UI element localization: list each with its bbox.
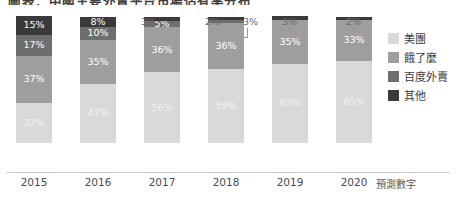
x-axis-tick-2020: 2020 bbox=[336, 176, 372, 188]
bar-segment[interactable]: 65% bbox=[336, 61, 372, 143]
bar-segment[interactable]: 63% bbox=[272, 64, 308, 143]
bar-segment[interactable]: 32% bbox=[16, 103, 52, 143]
segment-value-label: 15% bbox=[16, 20, 52, 30]
outside-value-label: 2% bbox=[346, 16, 361, 27]
leader-line bbox=[212, 28, 213, 34]
legend-item[interactable]: 百度外賣 bbox=[388, 67, 448, 85]
outside-value-label: 3% bbox=[141, 16, 156, 27]
segment-value-label: 10% bbox=[80, 28, 116, 38]
x-axis-tick-2018: 2018 bbox=[208, 176, 244, 188]
bar-column[interactable]: 47%35%10%8% bbox=[80, 17, 116, 143]
leader-line bbox=[244, 28, 248, 38]
bar-column[interactable]: 32%37%17%15% bbox=[16, 17, 52, 143]
segment-value-label: 63% bbox=[272, 98, 308, 108]
leader-line bbox=[353, 28, 354, 34]
segment-value-label: 65% bbox=[336, 97, 372, 107]
x-axis-tick-2016: 2016 bbox=[80, 176, 116, 188]
segment-value-label: 36% bbox=[208, 41, 244, 51]
legend-swatch-icon bbox=[388, 90, 399, 101]
legend-item[interactable]: 美團 bbox=[388, 29, 448, 47]
bar-column[interactable]: 65%33% bbox=[336, 17, 372, 143]
segment-value-label: 56% bbox=[144, 103, 180, 113]
segment-value-label: 32% bbox=[16, 118, 52, 128]
segment-value-label: 17% bbox=[16, 40, 52, 50]
forecast-note: 預測數字 bbox=[376, 176, 416, 191]
bar-segment[interactable]: 59% bbox=[208, 69, 244, 143]
x-axis-tick-2015: 2015 bbox=[16, 176, 52, 188]
bar-segment[interactable]: 36% bbox=[144, 27, 180, 72]
x-axis-tick-2017: 2017 bbox=[144, 176, 180, 188]
leader-line bbox=[148, 28, 149, 34]
segment-value-label: 33% bbox=[336, 35, 372, 45]
legend-item[interactable]: 餓了麼 bbox=[388, 48, 448, 66]
outside-value-label: 2% bbox=[205, 16, 220, 27]
bar-segment[interactable]: 10% bbox=[80, 27, 116, 40]
bar-segment[interactable]: 15% bbox=[16, 16, 52, 35]
bar-segment[interactable]: 47% bbox=[80, 84, 116, 143]
legend-item[interactable]: 其他 bbox=[388, 86, 448, 104]
legend: 美團餓了麼百度外賣其他 bbox=[388, 29, 448, 105]
legend-swatch-icon bbox=[388, 71, 399, 82]
bar-segment[interactable]: 37% bbox=[16, 56, 52, 103]
legend-swatch-icon bbox=[388, 33, 399, 44]
bar-segment[interactable]: 35% bbox=[80, 40, 116, 84]
legend-label: 百度外賣 bbox=[404, 68, 448, 84]
bar-segment[interactable]: 8% bbox=[80, 17, 116, 27]
segment-value-label: 35% bbox=[80, 57, 116, 67]
stacked-bar-chart: 圖表：中國主要外賣平台市場佔有率分布 32%37%17%15%47%35%10%… bbox=[0, 0, 457, 201]
plot-area: 32%37%17%15%47%35%10%8%56%36%5%3%59%36%2… bbox=[0, 0, 380, 172]
segment-value-label: 37% bbox=[16, 74, 52, 84]
bar-segment[interactable]: 17% bbox=[16, 35, 52, 56]
bar-column[interactable]: 59%36% bbox=[208, 17, 244, 143]
bar-column[interactable]: 56%36%5% bbox=[144, 17, 180, 143]
legend-label: 其他 bbox=[404, 87, 426, 103]
bar-segment[interactable]: 56% bbox=[144, 72, 180, 143]
segment-value-label: 35% bbox=[272, 37, 308, 47]
segment-value-label: 59% bbox=[208, 101, 244, 111]
outside-value-label: 3% bbox=[282, 16, 297, 27]
legend-label: 餓了麼 bbox=[404, 49, 437, 65]
segment-value-label: 36% bbox=[144, 45, 180, 55]
outside-value-label: 3% bbox=[243, 16, 258, 27]
segment-value-label: 47% bbox=[80, 108, 116, 118]
legend-swatch-icon bbox=[388, 52, 399, 63]
x-axis-line bbox=[6, 172, 450, 173]
segment-value-label: 8% bbox=[80, 17, 116, 27]
legend-label: 美團 bbox=[404, 30, 426, 46]
bar-column[interactable]: 63%35% bbox=[272, 17, 308, 143]
x-axis-tick-2019: 2019 bbox=[272, 176, 308, 188]
leader-line bbox=[289, 28, 290, 34]
bar-segment[interactable]: 36% bbox=[208, 23, 244, 68]
